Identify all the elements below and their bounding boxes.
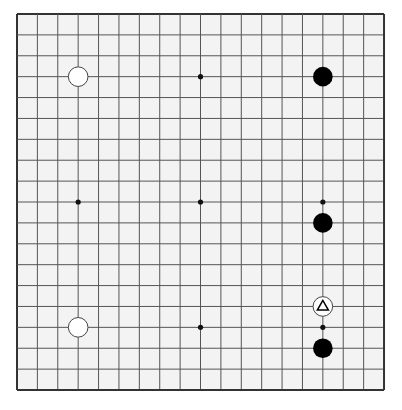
black-stone[interactable] bbox=[313, 213, 333, 233]
star-point bbox=[198, 199, 203, 204]
white-stone[interactable] bbox=[68, 67, 88, 87]
go-board[interactable] bbox=[17, 14, 384, 390]
star-point bbox=[198, 74, 203, 79]
black-stone[interactable] bbox=[313, 338, 333, 358]
star-point bbox=[320, 199, 325, 204]
white-stone[interactable] bbox=[68, 318, 88, 338]
star-point bbox=[198, 325, 203, 330]
board-grid bbox=[17, 14, 384, 390]
star-point bbox=[76, 199, 81, 204]
star-point bbox=[320, 325, 325, 330]
white-stone[interactable] bbox=[313, 297, 333, 317]
black-stone[interactable] bbox=[313, 67, 333, 87]
